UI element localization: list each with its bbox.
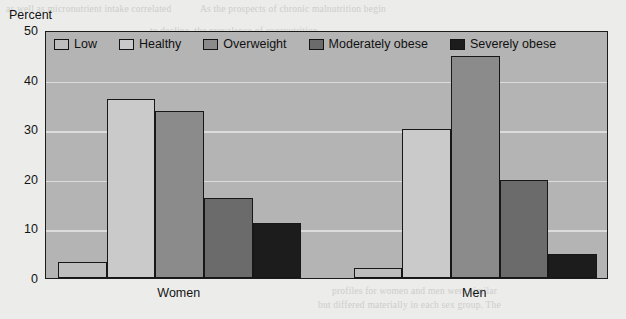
chart-legend: LowHealthyOverweightModerately obeseSeve… — [54, 38, 578, 51]
bar — [354, 268, 403, 278]
legend-item: Moderately obese — [309, 38, 428, 51]
legend-item: Low — [54, 38, 97, 51]
legend-swatch-icon — [450, 39, 465, 50]
legend-label: Low — [74, 38, 97, 51]
legend-swatch-icon — [119, 39, 134, 50]
y-axis-tick-label: 20 — [12, 173, 38, 187]
y-axis-tick-label: 0 — [12, 272, 38, 286]
legend-swatch-icon — [54, 39, 69, 50]
bar — [253, 223, 302, 278]
bar — [500, 180, 549, 278]
bar — [402, 129, 451, 278]
legend-label: Severely obese — [470, 38, 556, 51]
bar — [107, 99, 156, 278]
bar-chart-figure: Percent 50403020100 LowHealthyOverweight… — [0, 0, 626, 319]
bar — [58, 262, 107, 278]
legend-swatch-icon — [203, 39, 218, 50]
x-axis-group-label: Men — [462, 286, 486, 300]
legend-item: Healthy — [119, 38, 181, 51]
bar — [204, 198, 253, 278]
y-axis-tick-label: 30 — [12, 123, 38, 137]
y-axis-tick-label: 40 — [12, 74, 38, 88]
y-axis-tick-labels: 50403020100 — [8, 0, 38, 319]
legend-label: Overweight — [223, 38, 286, 51]
plot-area: LowHealthyOverweightModerately obeseSeve… — [45, 31, 608, 279]
legend-swatch-icon — [309, 39, 324, 50]
legend-item: Severely obese — [450, 38, 556, 51]
bar — [548, 254, 597, 278]
legend-label: Moderately obese — [329, 38, 428, 51]
legend-item: Overweight — [203, 38, 286, 51]
legend-label: Healthy — [139, 38, 181, 51]
bars-layer — [46, 32, 607, 278]
y-axis-tick-label: 10 — [12, 222, 38, 236]
bar — [451, 56, 500, 278]
bar — [155, 111, 204, 278]
x-axis-group-label: Women — [157, 286, 200, 300]
y-axis-tick-label: 50 — [12, 24, 38, 38]
